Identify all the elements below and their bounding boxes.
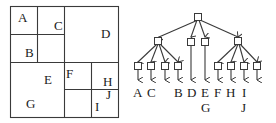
leaf-label-e: E <box>201 85 209 100</box>
se-node <box>235 38 242 45</box>
leaf-label-i: I <box>242 85 246 100</box>
leaf-label-g: G <box>201 100 210 115</box>
region-label-d: D <box>101 26 110 41</box>
leaf-node-b <box>175 63 182 70</box>
region-label-f: F <box>66 66 73 81</box>
d-node <box>188 39 195 46</box>
leaf-node-empty2 <box>254 63 261 70</box>
leaf-label-f: F <box>214 85 221 100</box>
leaf-label-a: A <box>133 85 143 100</box>
eg-node <box>202 39 209 46</box>
region-label-e: E <box>44 72 52 87</box>
leaf-label-b: B <box>174 85 183 100</box>
leaf-node-c <box>148 63 155 70</box>
region-label-c: C <box>54 18 63 33</box>
region-label-i: I <box>95 99 99 114</box>
leaf-node-a <box>135 63 142 70</box>
quadtree-diagram: A C D B E F H J G I <box>0 0 276 123</box>
region-label-j: J <box>106 87 111 102</box>
edge-se-4 <box>240 44 257 62</box>
leaf-label-d: D <box>187 85 196 100</box>
leaf-node-empty1 <box>162 63 169 70</box>
leaf-label-c: C <box>147 85 156 100</box>
leaf-node-h <box>228 63 235 70</box>
edge-root-se <box>200 20 238 37</box>
region-label-b: B <box>25 45 34 60</box>
root-node <box>195 14 202 21</box>
nw-node <box>155 38 162 45</box>
leaf-node-ij <box>241 63 248 70</box>
leaf-label-h: H <box>226 85 235 100</box>
tree-edges <box>138 20 257 80</box>
leaf-node-f <box>215 63 222 70</box>
region-label-a: A <box>18 10 28 25</box>
region-label-g: G <box>26 96 35 111</box>
edge-root-sw <box>199 20 205 37</box>
tree-leaf-labels: A C B D E G F H I J <box>133 85 246 115</box>
leaf-label-j: J <box>241 100 246 115</box>
tree-nodes <box>135 14 261 70</box>
edge-nw-4 <box>160 44 178 62</box>
